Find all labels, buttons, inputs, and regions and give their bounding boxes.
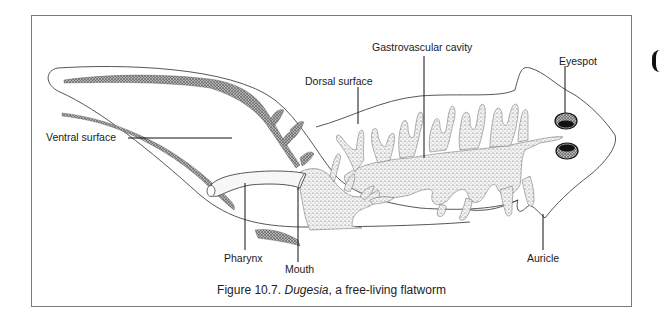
figure-caption: Figure 10.7. Dugesia, a free-living flat… xyxy=(0,283,666,297)
label-mouth: Mouth xyxy=(285,264,314,275)
label-dorsal-surface: Dorsal surface xyxy=(305,76,373,87)
caption-species: Dugesia xyxy=(284,283,328,297)
label-ventral-surface: Ventral surface xyxy=(46,132,116,143)
eyespots xyxy=(555,113,578,159)
label-gastrovascular-cavity: Gastrovascular cavity xyxy=(372,42,472,53)
label-eyespot: Eyespot xyxy=(559,56,597,67)
caption-suffix: , a free-living flatworm xyxy=(329,283,446,297)
clipped-parenthesis-glyph xyxy=(652,50,660,72)
caption-prefix: Figure 10.7. xyxy=(217,283,281,297)
pharynx-tube xyxy=(207,171,306,197)
label-pharynx: Pharynx xyxy=(224,253,263,264)
flatworm-illustration xyxy=(0,0,666,326)
label-auricle: Auricle xyxy=(527,253,559,264)
